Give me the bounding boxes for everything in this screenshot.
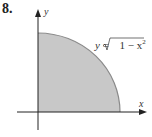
x-axis-label: x bbox=[139, 98, 143, 109]
quarter-circle-diagram bbox=[0, 0, 152, 137]
curve-equation: y = 1 − x2 bbox=[95, 38, 146, 51]
x-axis-arrow-icon bbox=[139, 109, 147, 115]
equation-exponent: 2 bbox=[142, 38, 146, 46]
y-axis-label: y bbox=[44, 6, 48, 17]
equation-lhs: y bbox=[95, 39, 100, 51]
equation-equals: = bbox=[103, 39, 109, 51]
y-axis-arrow-icon bbox=[35, 9, 41, 17]
equation-radicand: 1 − x bbox=[120, 39, 143, 51]
